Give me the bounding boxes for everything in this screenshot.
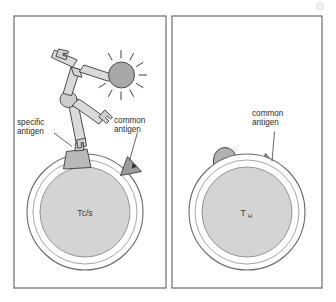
antibody-stem-fork (77, 138, 86, 148)
label-marker-core (109, 62, 135, 88)
specific-antigen-label-line2: antigen (17, 127, 44, 136)
tcs-cell-label: Tc/s (77, 208, 92, 218)
specific-antigen-label-line1: specific (17, 118, 44, 127)
th-cell-label-main: T (240, 208, 246, 218)
figure-root: specific antigen common antigen Tc/s (0, 0, 336, 302)
helper-t-cell-panel: common antigen T H (172, 16, 322, 288)
common-antigen-label-right-line2: antigen (252, 118, 279, 127)
cytotoxic-suppressor-t-cell-panel: specific antigen common antigen Tc/s (14, 16, 166, 288)
common-antigen-label-left-line1: common (114, 116, 146, 125)
t-cell-antigen-diagram: specific antigen common antigen Tc/s (0, 0, 336, 302)
scan-corner-artifact (316, 2, 324, 10)
th-nucleus (202, 167, 292, 257)
common-antigen-label-right-line1: common (252, 109, 284, 118)
common-antigen-label-left-line2: antigen (114, 125, 141, 134)
th-cell-label-subscript: H (248, 213, 252, 219)
